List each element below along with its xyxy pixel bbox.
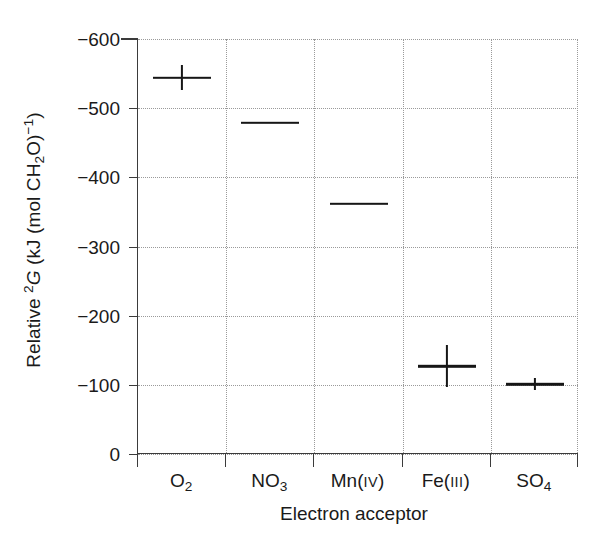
x-gridline bbox=[491, 39, 492, 453]
x-tick-mark bbox=[225, 454, 226, 467]
y-gridline bbox=[138, 247, 578, 248]
plot-area bbox=[137, 39, 578, 454]
y-gridline bbox=[138, 39, 578, 40]
data-point-errorbar bbox=[534, 378, 536, 390]
x-tick-mark bbox=[577, 454, 578, 467]
y-tick-label: −100 bbox=[48, 375, 120, 394]
x-tick-mark bbox=[490, 454, 491, 467]
x-tick-label: NO3 bbox=[251, 470, 287, 494]
x-tick-mark bbox=[402, 454, 403, 467]
y-tick-label: 0 bbox=[48, 445, 120, 464]
y-axis-label-symbol-sup: 2 bbox=[21, 285, 36, 293]
y-tick-mark bbox=[129, 39, 138, 40]
data-point-errorbar bbox=[181, 65, 183, 90]
x-gridline bbox=[403, 39, 404, 453]
x-axis-ticks: O2NO3Mn(IV)Fe(III)SO4 bbox=[137, 454, 578, 544]
x-gridline bbox=[314, 39, 315, 453]
data-point-bar bbox=[241, 121, 299, 123]
y-tick-mark bbox=[129, 385, 138, 386]
x-tick-mark bbox=[137, 454, 138, 467]
y-gridline bbox=[138, 108, 578, 109]
y-axis-label-text: Relative 2G (kJ (mol CH2O)−1) bbox=[21, 112, 47, 367]
y-tick-mark bbox=[129, 108, 138, 109]
x-axis-label: Electron acceptor bbox=[128, 503, 580, 525]
y-axis-label-symbol: G bbox=[23, 270, 44, 285]
y-axis-tick-labels: −600−500−400−300−200−1000 bbox=[48, 0, 120, 547]
y-tick-label: −300 bbox=[48, 237, 120, 256]
y-gridline bbox=[138, 177, 578, 178]
x-gridline bbox=[226, 39, 227, 453]
x-tick-mark bbox=[313, 454, 314, 467]
y-tick-label: −400 bbox=[48, 168, 120, 187]
y-tick-mark bbox=[129, 177, 138, 178]
y-tick-label: −600 bbox=[48, 30, 120, 49]
y-tick-mark bbox=[129, 316, 138, 317]
x-tick-label: SO4 bbox=[516, 470, 551, 494]
y-tick-label: −500 bbox=[48, 99, 120, 118]
x-tick-label: Mn(IV) bbox=[331, 470, 385, 492]
data-point-bar bbox=[330, 202, 388, 204]
x-tick-label: Fe(III) bbox=[422, 470, 470, 492]
chart-figure: Relative 2G (kJ (mol CH2O)−1) −600−500−4… bbox=[0, 0, 604, 547]
y-tick-label: −200 bbox=[48, 306, 120, 325]
data-point-errorbar bbox=[446, 345, 448, 387]
y-gridline bbox=[138, 316, 578, 317]
y-tick-mark bbox=[129, 247, 138, 248]
x-tick-label: O2 bbox=[170, 470, 192, 494]
